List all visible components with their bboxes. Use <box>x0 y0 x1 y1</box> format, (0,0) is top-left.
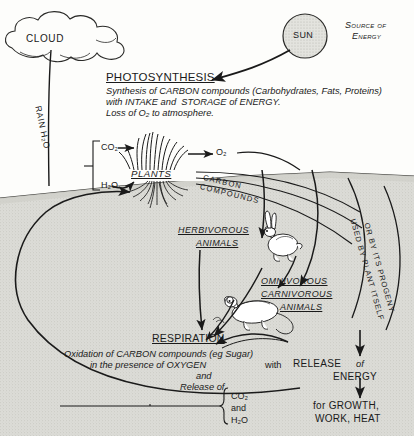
sun-caption-line1: Source of <box>345 20 386 30</box>
respiration-line4: Release of <box>180 382 224 392</box>
omnivores-line2: CARNIVOROUS <box>261 289 332 299</box>
carbon-cycle-diagram: CLOUD SUN Source of Energy RAIN H₂O PHOT… <box>0 0 414 436</box>
respiration-line2a: in the presence of OXYGEN <box>90 360 206 370</box>
ground-region <box>0 172 414 436</box>
sun-caption-line2: Energy <box>352 31 381 41</box>
co2-input-label: CO₂ <box>101 142 118 152</box>
respiration-line3: and <box>196 371 212 381</box>
sun-label: SUN <box>293 30 313 40</box>
h2o-input-label: H₂O <box>101 180 118 190</box>
release-co2: CO₂ <box>231 391 248 401</box>
photosynthesis-heading: PHOTOSYNTHESIS <box>106 71 215 84</box>
rain-arrow <box>48 50 51 186</box>
photosynthesis-line2: with INTAKE and STORAGE of ENERGY. <box>106 97 280 107</box>
release-of-label: of <box>356 359 364 369</box>
cloud-label: CLOUD <box>26 33 64 44</box>
o2-output-label: O₂ <box>216 147 227 157</box>
herbivores-line2: ANIMALS <box>196 238 238 248</box>
o2-atmosphere-curve <box>237 152 300 170</box>
release-h2o: H₂O <box>231 415 248 425</box>
grass-tuft-icon <box>119 132 188 170</box>
respiration-heading: RESPIRATION <box>152 333 225 345</box>
release-and: and <box>231 403 246 413</box>
gas-intake-bracket <box>84 141 100 190</box>
release-label: RELEASE <box>293 358 341 369</box>
energy-uses-line2: WORK, HEAT <box>315 413 381 424</box>
respiration-line1: Oxidation of CARBON compounds (eg Sugar) <box>64 349 253 359</box>
herbivores-line1: HERBIVOROUS <box>178 225 249 235</box>
photosynthesis-line3: Loss of O₂ to atmosphere. <box>106 108 214 118</box>
sun-energy-arrow <box>212 50 290 80</box>
energy-uses-line1: for GROWTH, <box>313 400 379 411</box>
omnivores-line1: OMNIVOROUS <box>261 276 328 286</box>
photosynthesis-line1: Synthesis of CARBON compounds (Carbohydr… <box>106 86 382 96</box>
energy-label: ENERGY <box>333 371 377 382</box>
plants-label: PLANTS <box>131 169 171 180</box>
respiration-line2b: with <box>265 360 282 370</box>
cloud-icon <box>6 12 124 62</box>
omnivores-line3: ANIMALS <box>280 302 322 312</box>
